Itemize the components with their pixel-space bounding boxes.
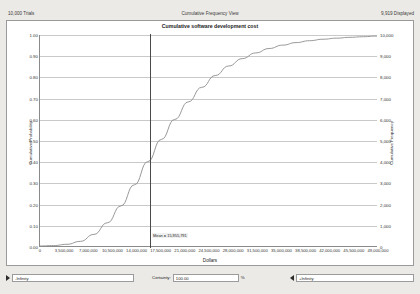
y-axis-right-tick: 1,000 <box>380 223 410 228</box>
chart-panel: Cumulative software development cost Cum… <box>6 20 414 266</box>
x-axis-tick: 24,500,000 <box>199 248 220 253</box>
x-axis-tick: 35,000,000 <box>271 248 292 253</box>
certainty-input[interactable]: 100.00 <box>173 274 239 282</box>
percent-label: % <box>241 275 245 280</box>
y-axis-left-tick: 0.10 <box>12 223 38 228</box>
y-axis-left-tick: 0.60 <box>12 117 38 122</box>
mean-line[interactable] <box>150 34 151 248</box>
x-axis-tick: 14,000,000 <box>126 248 147 253</box>
x-axis-tick: 10,500,000 <box>102 248 123 253</box>
x-axis-tick: 21,000,000 <box>174 248 195 253</box>
y-axis-left-tick: 0.80 <box>12 75 38 80</box>
x-axis-title: Dollars <box>7 258 413 263</box>
mean-line-label: Mean = 15,955,791 <box>152 233 188 238</box>
x-axis-tick: 38,500,000 <box>295 248 316 253</box>
displayed-count: 9,919 Displayed <box>381 8 414 20</box>
view-title: Cumulative Frequency View <box>0 8 420 20</box>
y-axis-left-tick: 0.00 <box>12 245 38 250</box>
x-axis-tick: 49,000,000 <box>368 248 389 253</box>
x-axis-tick: 28,000,000 <box>223 248 244 253</box>
crystal-ball-chart-window: 10,000 Trials Cumulative Frequency View … <box>0 0 420 294</box>
upper-bound-input[interactable]: +Infinity <box>296 274 414 282</box>
y-axis-left-tick: 0.20 <box>12 202 38 207</box>
y-axis-left-tick: 1.00 <box>12 33 38 38</box>
certainty-bar: -Infinity Certainty: 100.00 % +Infinity <box>6 272 414 284</box>
x-axis-tick: 45,500,000 <box>343 248 364 253</box>
y-axis-right-tick: 4,000 <box>380 160 410 165</box>
upper-grabber-icon[interactable] <box>290 275 294 281</box>
chart-title: Cumulative software development cost <box>7 23 413 29</box>
y-axis-right-tick: 9,000 <box>380 54 410 59</box>
y-axis-right-tick: 8,000 <box>380 75 410 80</box>
y-axis-right-tick: 10,000 <box>380 33 410 38</box>
y-axis-right-tick: 5,000 <box>380 139 410 144</box>
y-axis-right-tick: 2,000 <box>380 202 410 207</box>
y-axis-left-tick: 0.90 <box>12 54 38 59</box>
plot-area[interactable]: 1.000.900.800.700.600.500.400.300.200.10… <box>39 35 377 247</box>
lower-bound-input[interactable]: -Infinity <box>12 274 134 282</box>
y-axis-right-tick: 6,000 <box>380 117 410 122</box>
x-axis-tick: 17,500,000 <box>150 248 171 253</box>
y-axis-left-tick: 0.50 <box>12 139 38 144</box>
y-axis-right-tick: 3,000 <box>380 181 410 186</box>
x-axis-tick: 7,000,000 <box>79 248 98 253</box>
x-axis-tick: 31,500,000 <box>247 248 268 253</box>
x-axis-tick: 0 <box>39 248 41 253</box>
y-axis-left-tick: 0.30 <box>12 181 38 186</box>
y-axis-left-tick: 0.40 <box>12 160 38 165</box>
chart-info-bar: 10,000 Trials Cumulative Frequency View … <box>0 8 420 20</box>
x-axis-tick: 3,500,000 <box>55 248 74 253</box>
y-axis-left-tick: 0.70 <box>12 96 38 101</box>
cumulative-curve <box>40 35 377 246</box>
y-axis-right-tick: 7,000 <box>380 96 410 101</box>
x-axis-tick: 42,000,000 <box>319 248 340 253</box>
certainty-label: Certainty: <box>152 275 171 280</box>
lower-grabber-icon[interactable] <box>6 275 10 281</box>
